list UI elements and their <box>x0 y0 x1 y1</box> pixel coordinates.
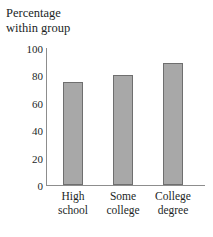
y-tick-label-80: 80 <box>3 71 43 82</box>
y-tick-label-20: 20 <box>3 154 43 165</box>
x-category-label-line-1: College <box>140 190 206 204</box>
y-axis-line <box>46 48 47 186</box>
bar-some-college <box>113 75 133 185</box>
x-axis-line <box>46 185 205 186</box>
y-tick-label-0: 0 <box>3 181 43 192</box>
x-category-label-line-2: degree <box>140 204 206 218</box>
y-axis-title-line-1: Percentage <box>6 6 70 21</box>
y-tick-label-100: 100 <box>3 44 43 55</box>
x-category-label-college-degree: College degree <box>140 190 206 217</box>
y-tick-label-40: 40 <box>3 126 43 137</box>
y-axis-title: Percentage within group <box>6 6 70 35</box>
y-axis-title-line-2: within group <box>6 21 70 36</box>
bar-college-degree <box>163 63 183 185</box>
bar-chart: Percentage within group 100 80 60 40 20 … <box>0 0 213 237</box>
bar-high-school <box>63 82 83 185</box>
y-tick-label-60: 60 <box>3 99 43 110</box>
